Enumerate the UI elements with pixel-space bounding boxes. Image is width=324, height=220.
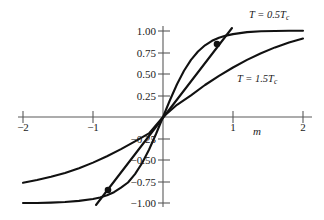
magnetization-chart-figure: 1.00 0.75 0.50 0.25 −0.25 −0.50 −0.75 −1… bbox=[0, 0, 324, 220]
y-tick-label-0.75: 0.75 bbox=[126, 48, 156, 59]
y-tick-label-0.25: 0.25 bbox=[126, 91, 156, 102]
annotation-t-1-5-tc-text: T = 1.5T bbox=[237, 73, 274, 84]
y-tick-label--1.00: −1.00 bbox=[120, 198, 156, 209]
y-tick-label-0.50: 0.50 bbox=[126, 69, 156, 80]
x-tick-label--2: −2 bbox=[9, 122, 37, 133]
x-tick-label-2: 2 bbox=[292, 122, 314, 133]
x-axis-label: m bbox=[253, 126, 261, 137]
intersection-marker-negative bbox=[105, 187, 112, 194]
annotation-t-1-5-tc-sub: c bbox=[274, 77, 277, 86]
annotation-t-1-5-tc: T = 1.5Tc bbox=[237, 74, 277, 85]
annotation-t-0-5-tc: T = 0.5Tc bbox=[249, 10, 289, 21]
chart-plot-area bbox=[0, 0, 324, 220]
y-tick-label--0.25: −0.25 bbox=[120, 134, 156, 145]
x-tick-label--1: −1 bbox=[79, 122, 107, 133]
intersection-marker-positive bbox=[214, 41, 221, 48]
annotation-t-0-5-tc-sub: c bbox=[286, 13, 289, 22]
y-tick-label-1.00: 1.00 bbox=[126, 26, 156, 37]
y-tick-label--0.75: −0.75 bbox=[120, 177, 156, 188]
annotation-t-0-5-tc-text: T = 0.5T bbox=[249, 9, 286, 20]
x-tick-label-1: 1 bbox=[222, 122, 244, 133]
y-tick-label--0.50: −0.50 bbox=[120, 155, 156, 166]
